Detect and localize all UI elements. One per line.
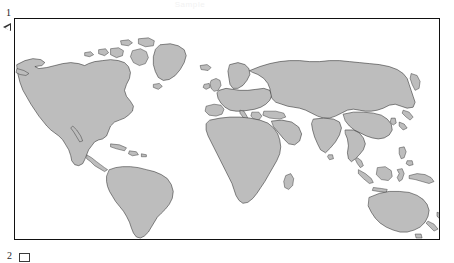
region-australia (368, 191, 429, 232)
island-arctic-a (121, 40, 133, 46)
left-triangle-icon-inner (5, 25, 10, 31)
island-new-zealand-north (437, 212, 439, 220)
island-sumatra (358, 170, 373, 184)
region-africa (206, 117, 281, 203)
region-malay-peninsula (355, 158, 363, 168)
island-iceland (200, 65, 211, 71)
rectangle-glyph-icon (19, 253, 30, 262)
world-map-figure (14, 18, 440, 240)
island-philippines-south (406, 161, 413, 166)
island-newfoundland (153, 83, 162, 89)
island-arctic-b (85, 52, 94, 57)
page-watermark: Sample (150, 0, 230, 11)
region-central-america (87, 155, 108, 172)
island-puerto-rico (141, 154, 146, 157)
world-map-svg (15, 19, 439, 239)
island-borneo (376, 167, 392, 181)
island-sulawesi (397, 169, 404, 182)
island-new-zealand-south (426, 221, 438, 231)
region-anatolia (263, 111, 286, 119)
margin-marker-number: 1 (6, 8, 11, 18)
region-british-isles (210, 78, 221, 91)
island-banks (99, 49, 109, 56)
island-cuba (111, 144, 127, 151)
region-japan (402, 110, 413, 120)
bottom-marker-number: 2 (7, 251, 12, 261)
region-europe (217, 88, 272, 111)
island-hispaniola (128, 151, 138, 156)
region-north-america (17, 59, 133, 166)
region-japan-south (399, 122, 407, 130)
region-scandinavia (228, 63, 250, 89)
region-southeast-asia (345, 130, 365, 162)
island-tasmania (415, 234, 422, 238)
island-ellesmere (138, 38, 154, 47)
island-victoria (111, 48, 124, 58)
island-philippines (399, 147, 406, 159)
region-india (312, 118, 342, 153)
region-russia-siberia (250, 61, 415, 118)
island-ireland (203, 83, 210, 89)
island-new-guinea (409, 174, 434, 184)
bottom-page-marks: 2 (7, 251, 47, 263)
island-sri-lanka (328, 155, 334, 160)
region-south-america (107, 167, 174, 238)
region-kamchatka (410, 74, 420, 91)
island-baffin (130, 49, 148, 66)
region-greenland (153, 44, 186, 81)
region-iberia (205, 104, 224, 116)
island-java (372, 187, 387, 192)
island-madagascar (284, 174, 294, 190)
